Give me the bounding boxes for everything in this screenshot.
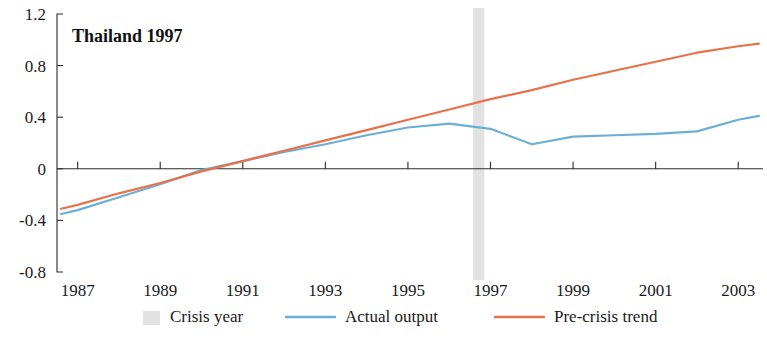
chart-container: 1.20.80.40-0.4-0.8 198719891991199319951… [0, 0, 767, 345]
y-tick-label: 1.2 [25, 5, 46, 24]
legend-label: Actual output [345, 307, 438, 326]
x-tick-label: 1995 [391, 281, 425, 300]
y-tick-label: 0.4 [25, 108, 47, 127]
x-tick-label: 1989 [143, 281, 177, 300]
y-tick-label: 0.8 [25, 57, 46, 76]
x-tick-label: 2003 [721, 281, 755, 300]
legend-label: Pre-crisis trend [554, 307, 658, 326]
x-tick-label: 1987 [61, 281, 96, 300]
chart-legend: Crisis yearActual outputPre-crisis trend [143, 307, 658, 326]
y-tick-label: -0.4 [19, 211, 46, 230]
chart-title: Thailand 1997 [72, 26, 183, 46]
x-tick-label: 1999 [556, 281, 590, 300]
legend-swatch [143, 311, 160, 325]
y-tick-label: -0.8 [19, 263, 46, 282]
legend-label: Crisis year [170, 307, 244, 326]
x-axis-tick-labels: 198719891991199319951997199920012003 [61, 281, 756, 300]
y-tick-label: 0 [38, 160, 47, 179]
crisis-year-band-group [473, 8, 484, 280]
crisis-year-band [473, 8, 484, 280]
line-chart: 1.20.80.40-0.4-0.8 198719891991199319951… [0, 0, 767, 345]
x-tick-label: 1993 [308, 281, 342, 300]
x-tick-label: 1997 [474, 281, 509, 300]
x-tick-label: 2001 [639, 281, 673, 300]
x-tick-label: 1991 [226, 281, 260, 300]
